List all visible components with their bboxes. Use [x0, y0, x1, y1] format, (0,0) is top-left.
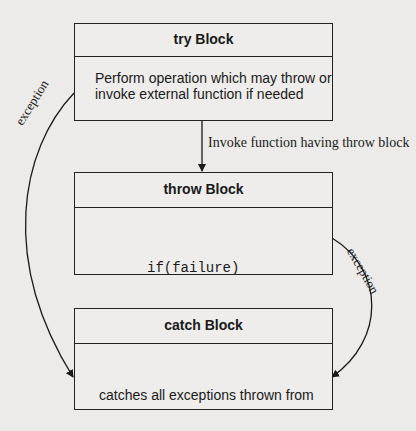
arrow-try-to-catch	[26, 93, 74, 377]
code-line-1: if(failure)	[147, 260, 332, 276]
throw-block: throw Block if(failure) throw object;	[74, 172, 333, 275]
catch-block-title: catch Block	[75, 309, 332, 344]
try-block: try Block Perform operation which may th…	[74, 23, 333, 121]
throw-block-title: throw Block	[75, 173, 332, 208]
try-block-body: Perform operation which may throw or inv…	[75, 57, 332, 120]
try-line-2: invoke external function if needed	[95, 86, 332, 102]
edge-label-invoke: Invoke function having throw block	[208, 135, 409, 151]
try-block-title: try Block	[75, 24, 332, 57]
catch-block: catch Block catches all exceptions throw…	[74, 308, 333, 410]
try-line-1: Perform operation which may throw or	[95, 70, 332, 86]
catch-line-1: catches all exceptions thrown from	[99, 387, 332, 403]
throw-block-body: if(failure) throw object;	[75, 208, 332, 274]
catch-block-body: catches all exceptions thrown from withi…	[75, 344, 332, 409]
